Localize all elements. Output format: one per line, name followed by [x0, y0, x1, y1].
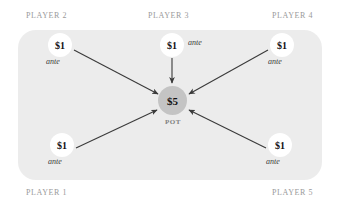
ante-chip-player-4: $1 — [270, 33, 294, 57]
arrow-player-4-to-pot — [189, 50, 268, 94]
ante-chip-player-2: $1 — [48, 33, 72, 57]
arrow-player-1-to-pot — [76, 110, 157, 148]
arrow-player-5-to-pot — [189, 110, 266, 148]
ante-note-player-2: ante — [46, 57, 60, 66]
ante-note-player-4: ante — [268, 57, 282, 66]
pot-chip: $5 — [158, 86, 187, 115]
arrow-player-2-to-pot — [74, 50, 158, 94]
ante-chip-player-3: $1 — [160, 33, 184, 57]
ante-chip-player-5: $1 — [268, 133, 292, 157]
pot-label: POT — [160, 118, 186, 126]
ante-note-player-1: ante — [48, 157, 62, 166]
ante-note-player-3: ante — [188, 38, 202, 47]
ante-chip-player-1: $1 — [50, 133, 74, 157]
ante-diagram: PLAYER 2 PLAYER 3 PLAYER 4 PLAYER 1 PLAY… — [0, 0, 340, 210]
ante-note-player-5: ante — [266, 157, 280, 166]
